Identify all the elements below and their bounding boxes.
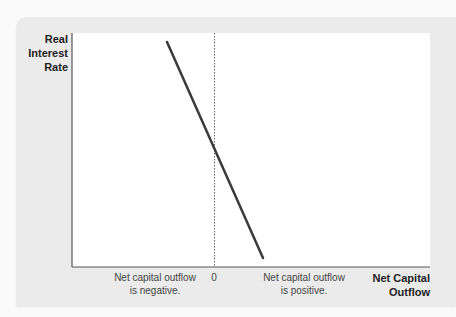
chart-svg xyxy=(0,0,456,317)
y-axis-label-line: Interest xyxy=(28,46,68,60)
x-axis-label: Net Capital Outflow xyxy=(373,271,430,299)
negative-outflow-note: Net capital outflow is negative. xyxy=(100,271,210,297)
y-axis-label-line: Real xyxy=(28,32,68,46)
y-axis-label-line: Rate xyxy=(28,60,68,74)
note-line: is negative. xyxy=(100,284,210,297)
x-axis-label-line: Outflow xyxy=(373,285,430,299)
positive-outflow-note: Net capital outflow is positive. xyxy=(244,271,364,297)
note-line: Net capital outflow xyxy=(100,271,210,284)
zero-tick-label: 0 xyxy=(206,271,222,284)
y-axis-label: Real Interest Rate xyxy=(28,32,68,74)
note-line: Net capital outflow xyxy=(244,271,364,284)
note-line: is positive. xyxy=(244,284,364,297)
x-axis-label-line: Net Capital xyxy=(373,271,430,285)
